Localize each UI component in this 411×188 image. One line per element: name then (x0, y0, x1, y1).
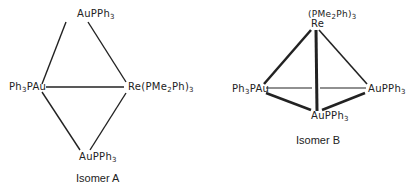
isomer-a-left-ph3pau: Ph3PAu (9, 82, 46, 92)
isomer-a-bonds (42, 22, 126, 150)
isomer-a-right-re: Re(PMe2Ph)3 (128, 82, 194, 92)
isomer-b-caption: Isomer B (296, 134, 340, 146)
isomer-b-bonds (264, 30, 367, 111)
isomer-b-right-aupph3: AuPPh3 (368, 84, 406, 94)
isomer-b-re: Re (311, 19, 324, 29)
bond-lines (0, 0, 411, 188)
isomer-b-left-ph3pau: Ph3PAu (232, 84, 269, 94)
isomer-a-top-aupph3: AuPPh3 (77, 9, 115, 19)
isomer-b-bottom-aupph3: AuPPh3 (311, 111, 349, 121)
isomer-a-bottom-aupph3: AuPPh3 (79, 152, 117, 162)
isomer-a-caption: Isomer A (76, 172, 119, 184)
